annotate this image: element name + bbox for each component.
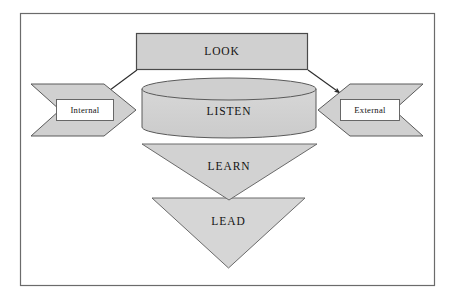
- shape-listen-cylinder-top: [142, 78, 316, 100]
- look-label: LOOK: [204, 45, 240, 57]
- learn-label: LEARN: [208, 160, 251, 172]
- lead-label: LEAD: [211, 215, 245, 227]
- diagram-svg: Internal External LEAD LEARN LISTEN LOOK: [0, 0, 456, 302]
- internal-label: Internal: [70, 105, 99, 115]
- diagram-canvas: Internal External LEAD LEARN LISTEN LOOK: [0, 0, 456, 302]
- external-label: External: [354, 105, 386, 115]
- listen-label: LISTEN: [206, 105, 251, 117]
